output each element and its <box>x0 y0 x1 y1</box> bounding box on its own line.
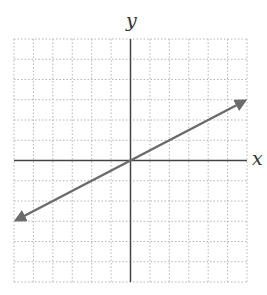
coordinate-plane: y x <box>0 0 267 295</box>
x-axis-label: x <box>252 147 263 169</box>
y-axis-label: y <box>125 9 137 31</box>
